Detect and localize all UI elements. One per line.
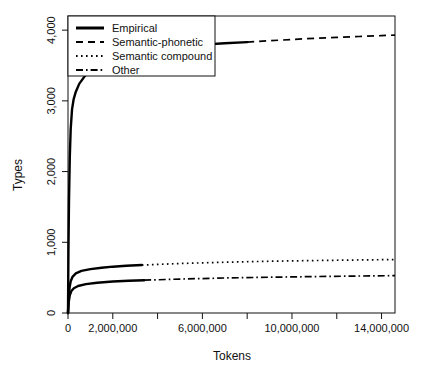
types-tokens-line-chart: 02,000,0006,000,00010,000,00014,000,0000… <box>0 0 434 380</box>
chart-legend: EmpiricalSemantic-phoneticSemantic compo… <box>68 16 215 76</box>
legend-label: Semantic compound <box>112 50 212 62</box>
legend-label: Other <box>112 64 140 76</box>
y-tick-label: 4,000 <box>45 16 57 44</box>
x-tick-label: 6,000,000 <box>178 322 227 334</box>
y-tick-label: 0 <box>45 310 57 316</box>
y-tick-label: 1,000 <box>45 229 57 257</box>
x-tick-label: 0 <box>65 322 71 334</box>
x-tick-label: 14,000,000 <box>354 322 409 334</box>
x-axis-title: Tokens <box>213 349 251 363</box>
x-tick-label: 10,000,000 <box>264 322 319 334</box>
chart-figure: 02,000,0006,000,00010,000,00014,000,0000… <box>0 0 434 380</box>
legend-label: Semantic-phonetic <box>112 36 204 48</box>
x-tick-label: 2,000,000 <box>88 322 137 334</box>
y-tick-label: 2,000 <box>45 158 57 186</box>
y-axis-title: Types <box>11 159 25 191</box>
legend-label: Empirical <box>112 22 157 34</box>
y-tick-label: 3,000 <box>45 87 57 115</box>
